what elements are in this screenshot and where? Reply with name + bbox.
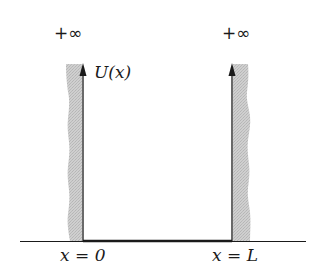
left-infinity-label: +∞ [54,25,82,42]
potential-well-diagram [0,0,324,274]
x-zero-label: x = 0 [60,247,105,264]
right-infinity-label: +∞ [222,25,250,42]
potential-axis-label: U(x) [94,64,131,81]
right-wall-shading [233,64,250,241]
x-L-label: x = L [212,247,258,264]
left-wall-shading [66,64,82,241]
